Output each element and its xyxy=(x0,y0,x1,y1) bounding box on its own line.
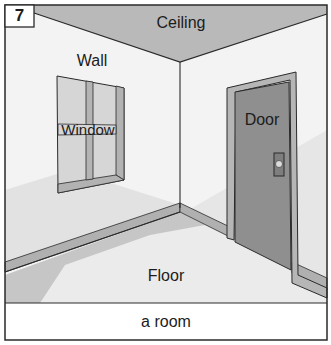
label-window: Window xyxy=(61,122,114,137)
label-door: Door xyxy=(245,112,280,128)
room-illustration xyxy=(0,0,331,345)
figure-number: 7 xyxy=(5,5,34,27)
figure-caption: a room xyxy=(5,304,327,339)
door-knob xyxy=(276,161,283,168)
label-ceiling: Ceiling xyxy=(157,15,206,31)
label-floor: Floor xyxy=(148,268,184,284)
label-wall: Wall xyxy=(77,53,108,69)
